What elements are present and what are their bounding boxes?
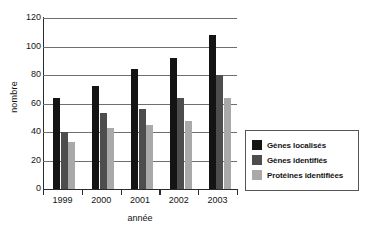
bar-group bbox=[92, 18, 114, 189]
legend-item: Gènes identifiés bbox=[252, 155, 353, 165]
bar bbox=[68, 142, 75, 189]
y-tick-label: 60 bbox=[19, 99, 41, 108]
legend-swatch bbox=[252, 170, 262, 180]
bar bbox=[224, 98, 231, 189]
x-tick-label: 1999 bbox=[42, 195, 82, 205]
bar-group bbox=[209, 18, 231, 189]
bar bbox=[216, 75, 223, 189]
legend-label: Protéines identifiées bbox=[267, 171, 343, 180]
x-tick-label: 2001 bbox=[120, 195, 160, 205]
legend-swatch bbox=[252, 155, 262, 165]
bar bbox=[107, 128, 114, 189]
bar bbox=[209, 35, 216, 189]
bar bbox=[139, 109, 146, 189]
bar-group bbox=[131, 18, 153, 189]
y-tick-label: 120 bbox=[19, 13, 41, 22]
bar bbox=[146, 125, 153, 189]
y-tick-label: 20 bbox=[19, 156, 41, 165]
bar-chart: nombre 020406080100120 19992000200120022… bbox=[0, 0, 368, 239]
bar bbox=[100, 113, 107, 189]
y-tick-label: 40 bbox=[19, 127, 41, 136]
bar bbox=[131, 69, 138, 189]
y-tick-label: 80 bbox=[19, 70, 41, 79]
y-tick-label: 0 bbox=[19, 184, 41, 193]
bar bbox=[170, 58, 177, 189]
bar bbox=[61, 132, 68, 189]
bar bbox=[53, 98, 60, 189]
plot-area bbox=[43, 18, 237, 190]
chart-legend: Gènes localisésGènes identifiésProtéines… bbox=[245, 130, 359, 191]
bar-group bbox=[170, 18, 192, 189]
bar bbox=[185, 121, 192, 189]
y-tick-label: 100 bbox=[19, 42, 41, 51]
x-tick-label: 2002 bbox=[159, 195, 199, 205]
x-tick-label: 2000 bbox=[81, 195, 121, 205]
legend-swatch bbox=[252, 140, 262, 150]
x-axis-title: année bbox=[43, 213, 237, 223]
bar bbox=[92, 86, 99, 189]
legend-label: Gènes identifiés bbox=[267, 156, 327, 165]
bar-group bbox=[53, 18, 75, 189]
bar bbox=[177, 98, 184, 189]
legend-label: Gènes localisés bbox=[267, 141, 326, 150]
y-axis-tick-labels: 020406080100120 bbox=[17, 0, 41, 239]
x-tick-label: 2003 bbox=[198, 195, 238, 205]
legend-item: Gènes localisés bbox=[252, 140, 353, 150]
legend-item: Protéines identifiées bbox=[252, 170, 353, 180]
